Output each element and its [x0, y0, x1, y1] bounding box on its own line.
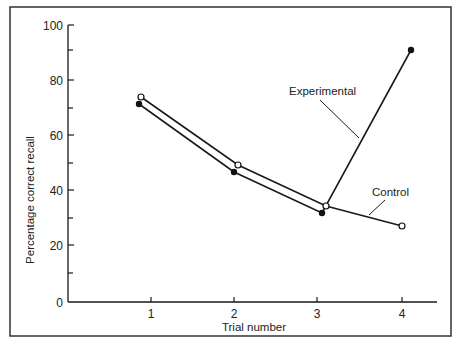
control-annotation: Control — [372, 186, 409, 198]
y-tick-0: 0 — [56, 296, 63, 310]
x-tick-4: 4 — [399, 307, 406, 321]
y-tick-100: 100 — [43, 19, 63, 33]
x-tick-1: 1 — [148, 307, 155, 321]
y-tick-40: 40 — [50, 184, 64, 198]
y-tick-60: 60 — [50, 129, 64, 143]
x-tick-3: 3 — [314, 307, 321, 321]
experimental-annotation: Experimental — [289, 85, 356, 97]
experimental-line — [139, 50, 411, 213]
y-ticks — [68, 25, 74, 273]
control-markers — [138, 94, 405, 229]
control-line — [141, 97, 402, 226]
chart-border — [10, 7, 451, 336]
experimental-leader-line — [320, 100, 359, 138]
y-tick-20: 20 — [50, 239, 64, 253]
control-leader-line — [369, 200, 385, 215]
chart-svg: 100 80 60 40 20 0 Percentage correct rec… — [0, 0, 460, 351]
x-tick-2: 2 — [231, 307, 238, 321]
y-tick-80: 80 — [50, 74, 64, 88]
x-axis-label: Trial number — [222, 321, 286, 333]
y-axis-label: Percentage correct recall — [24, 136, 36, 264]
x-ticks — [151, 297, 402, 302]
x-tick-labels: 1 2 3 4 — [148, 307, 406, 321]
y-tick-labels: 100 80 60 40 20 0 — [43, 19, 63, 310]
